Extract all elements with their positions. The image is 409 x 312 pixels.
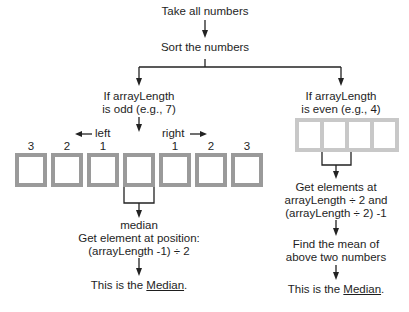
arrow-odd-to-array — [136, 117, 142, 132]
index-label: 1 — [165, 140, 185, 153]
even-result: This is the Median. — [266, 283, 406, 296]
odd-condition-line2: is odd (e.g., 7) — [89, 103, 189, 116]
odd-median-bracket — [124, 187, 154, 218]
even-rule-line3: (arrayLength ÷ 2) -1 — [276, 207, 396, 220]
arrow-even-rule-to-mean — [333, 220, 339, 236]
odd-result-suffix: . — [184, 279, 187, 291]
odd-result-prefix: This is the — [91, 279, 147, 291]
index-label: 3 — [21, 140, 41, 153]
step-take-all-numbers: Take all numbers — [155, 5, 255, 18]
even-result-median-word: Median — [343, 283, 381, 295]
even-mean-line1: Find the mean of — [276, 238, 396, 251]
left-arrow-icon — [75, 131, 92, 137]
odd-rule-line2: (arrayLength -1) ÷ 2 — [59, 245, 219, 258]
branch-connector — [136, 59, 344, 86]
median-label: median — [59, 219, 219, 232]
even-rule: Get elements at arrayLength ÷ 2 and (arr… — [276, 181, 396, 220]
even-result-prefix: This is the — [288, 283, 344, 295]
odd-result: This is the Median. — [69, 279, 209, 292]
even-rule-line2: arrayLength ÷ 2 and — [276, 194, 396, 207]
odd-median-rule: median Get element at position: (arrayLe… — [59, 219, 219, 258]
arrow-odd-rule-to-result — [136, 258, 142, 276]
even-condition-line1: If arrayLength — [286, 90, 396, 103]
even-condition: If arrayLength is even (e.g., 4) — [286, 90, 396, 116]
odd-condition: If arrayLength is odd (e.g., 7) — [89, 90, 189, 116]
even-mean-step: Find the mean of above two numbers — [276, 238, 396, 264]
even-mean-line2: above two numbers — [276, 251, 396, 264]
index-label: 3 — [237, 140, 257, 153]
right-label: right — [162, 127, 184, 140]
even-condition-line2: is even (e.g., 4) — [286, 103, 396, 116]
right-arrow-icon — [190, 131, 207, 137]
index-label: 1 — [93, 140, 113, 153]
odd-rule-line1: Get element at position: — [59, 232, 219, 245]
arrow-even-mean-to-result — [333, 265, 339, 280]
even-result-suffix: . — [381, 283, 384, 295]
index-label: 2 — [57, 140, 77, 153]
index-label: 2 — [201, 140, 221, 153]
even-middle-bracket — [322, 152, 351, 179]
arrow-take-to-sort — [202, 20, 208, 38]
left-label: left — [95, 127, 110, 140]
step-sort-numbers: Sort the numbers — [150, 41, 260, 54]
odd-array-boxes — [17, 155, 261, 185]
odd-result-median-word: Median — [146, 279, 184, 291]
even-rule-line1: Get elements at — [276, 181, 396, 194]
even-array-boxes — [297, 120, 397, 150]
odd-condition-line1: If arrayLength — [89, 90, 189, 103]
